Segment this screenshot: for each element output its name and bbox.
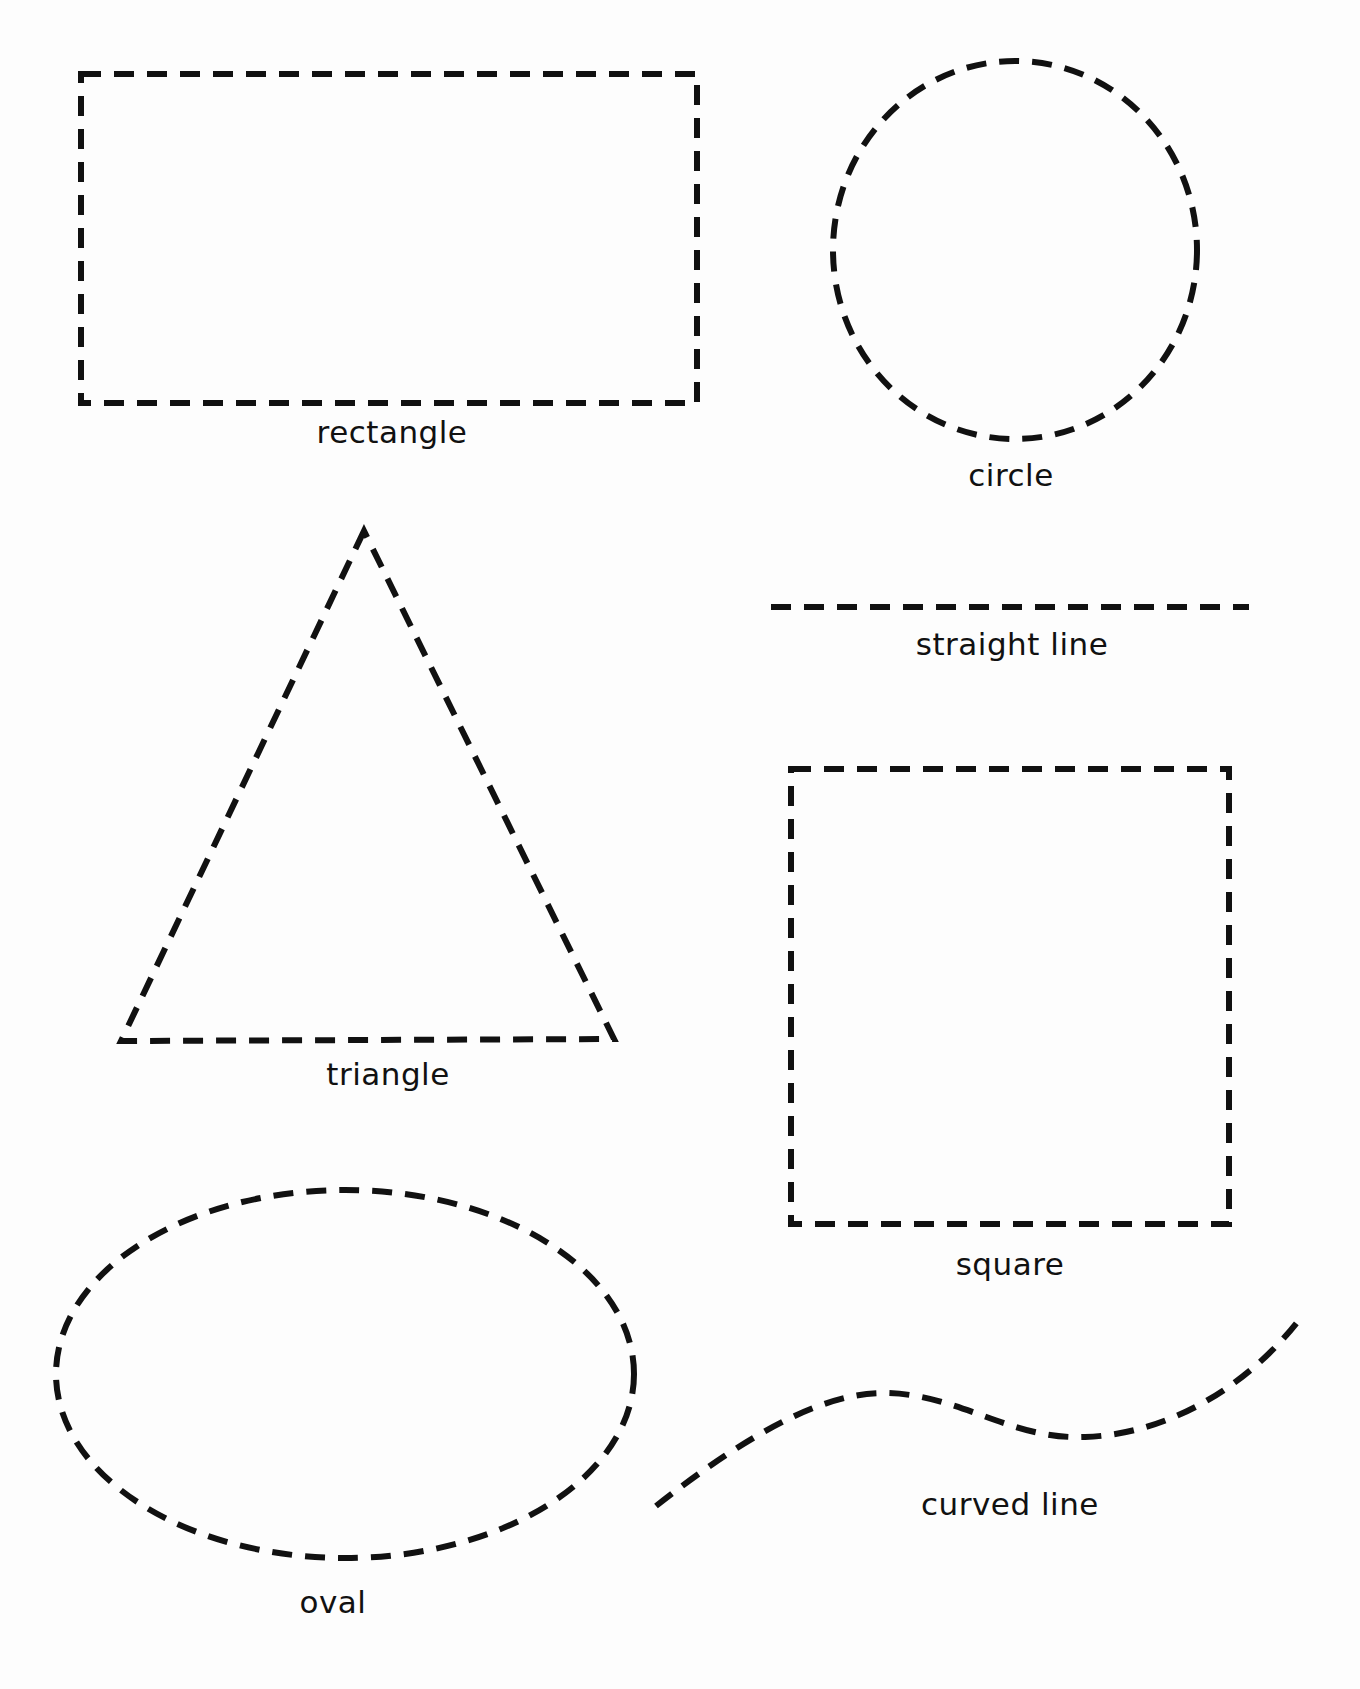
triangle-label: triangle bbox=[326, 1059, 450, 1090]
curved-line-label: curved line bbox=[921, 1489, 1099, 1520]
square-label: square bbox=[956, 1249, 1065, 1280]
rectangle-dashed-outline bbox=[81, 74, 697, 403]
oval-label: oval bbox=[300, 1587, 367, 1618]
shapes-tracing-worksheet: rectanglecircletrianglestraight linesqua… bbox=[0, 0, 1360, 1689]
circle-dashed-outline bbox=[833, 61, 1197, 439]
oval-dashed-outline bbox=[56, 1190, 634, 1558]
shapes-canvas bbox=[0, 0, 1360, 1689]
straight-line-label: straight line bbox=[916, 629, 1108, 660]
square-dashed-outline bbox=[791, 769, 1229, 1224]
curved-line-dashed-outline bbox=[656, 1316, 1302, 1506]
rectangle-label: rectangle bbox=[317, 417, 468, 448]
triangle-dashed-outline bbox=[121, 531, 614, 1041]
circle-label: circle bbox=[968, 460, 1053, 491]
